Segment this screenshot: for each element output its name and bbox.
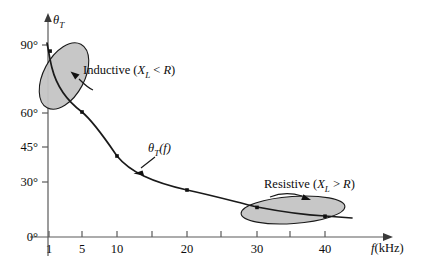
x-tick-label-20: 20 bbox=[175, 243, 199, 256]
x-tick-label-1: 1 bbox=[39, 243, 59, 256]
y-axis-arrowhead bbox=[44, 13, 52, 22]
resistive-region-label: Resistive (XL > R) bbox=[264, 178, 355, 194]
curve-label-leader-line bbox=[134, 157, 156, 176]
y-tick-label-60: 60° bbox=[0, 107, 38, 120]
x-axis-label: f(kHz) bbox=[371, 242, 404, 255]
data-point bbox=[323, 214, 327, 218]
x-axis-arrowhead bbox=[383, 233, 393, 241]
curve-label: θT(f) bbox=[148, 142, 171, 158]
data-point bbox=[80, 110, 84, 114]
x-tick-label-5: 5 bbox=[72, 243, 92, 256]
y-axis-label: θT bbox=[53, 14, 64, 30]
data-point bbox=[185, 188, 189, 192]
y-tick-label-0: 0° bbox=[0, 231, 38, 244]
x-tick-marks bbox=[49, 231, 325, 237]
data-point bbox=[255, 206, 259, 210]
y-tick-label-30: 30° bbox=[0, 176, 38, 189]
figure-theta-vs-frequency: θT f(kHz) 90° 60° 45° 30° 0° 1 5 10 20 3… bbox=[0, 0, 424, 277]
data-point bbox=[48, 49, 52, 53]
inductive-region-label: Inductive (XL < R) bbox=[83, 64, 175, 80]
x-tick-label-30: 30 bbox=[245, 243, 269, 256]
x-tick-label-40: 40 bbox=[313, 243, 337, 256]
y-tick-label-45: 45° bbox=[0, 141, 38, 154]
y-tick-label-90: 90° bbox=[0, 39, 38, 52]
x-tick-label-10: 10 bbox=[105, 243, 129, 256]
plot-canvas bbox=[0, 0, 424, 277]
resistive-region-ellipse bbox=[240, 193, 346, 227]
data-point bbox=[115, 154, 119, 158]
